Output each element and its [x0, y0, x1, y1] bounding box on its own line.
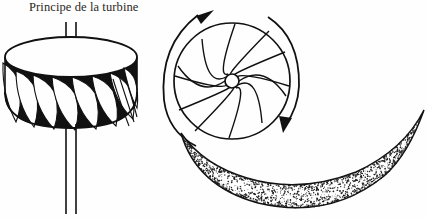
rotor-top-face	[5, 37, 137, 77]
rotor-bottom-shaft	[66, 124, 76, 214]
runner-top-view-group	[163, 10, 299, 146]
figure-canvas: Principe de la turbine	[0, 0, 427, 218]
illustration-svg	[0, 0, 427, 218]
rotation-arrow-right-head	[279, 116, 292, 133]
runner-hub	[225, 74, 239, 88]
rotor-3d-group	[3, 22, 138, 214]
rotation-arrow-left-head	[196, 10, 214, 24]
